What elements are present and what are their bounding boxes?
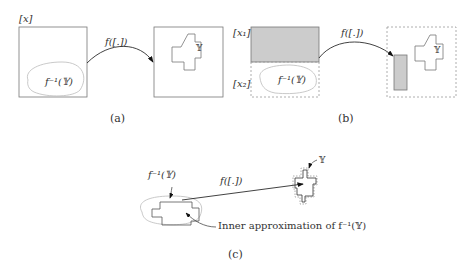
target-pointer	[309, 160, 317, 168]
box1-label: [x₁]	[233, 27, 250, 38]
map-label: f([.])	[220, 175, 243, 186]
inner-approx-label: Inner approximation of f⁻¹(𝕐)	[218, 220, 366, 231]
caption-c: (c)	[228, 248, 243, 261]
target-label: 𝕐	[319, 155, 325, 165]
box-x1	[251, 27, 319, 62]
map-arrow	[87, 46, 153, 63]
preimage-label: f⁻¹(𝕐)	[148, 169, 176, 180]
map-arrow	[319, 42, 393, 58]
image-of-x1	[394, 55, 407, 90]
map-arrow	[182, 184, 303, 200]
map-label: f([.])	[105, 36, 128, 47]
box2-label: [x₂]	[233, 78, 250, 89]
preimage-blob	[140, 196, 201, 225]
domain-label: [x]	[19, 13, 32, 24]
target-label: 𝕐	[434, 45, 440, 55]
caption-b: (b)	[338, 112, 354, 125]
map-label: f([.])	[341, 27, 364, 38]
preimage-label: f⁻¹(𝕐)	[45, 76, 73, 87]
image-box	[154, 27, 223, 97]
preimage-label: f⁻¹(𝕐)	[278, 74, 306, 85]
target-label: 𝕐	[196, 43, 202, 53]
caption-a: (a)	[110, 112, 125, 125]
inner-approximation	[152, 202, 199, 225]
